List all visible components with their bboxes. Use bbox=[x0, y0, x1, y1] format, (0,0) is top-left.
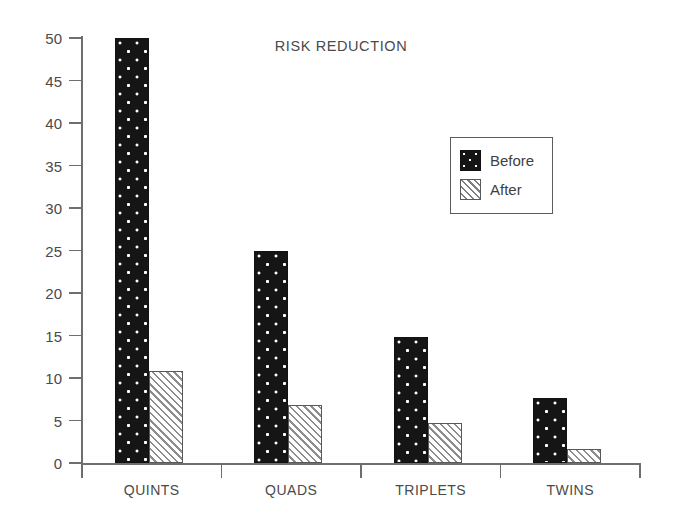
y-axis-tick-label: 25 bbox=[10, 242, 62, 259]
y-axis-tick-label: 35 bbox=[10, 157, 62, 174]
y-axis-tick bbox=[69, 122, 81, 123]
legend-item-after[interactable]: After bbox=[460, 175, 552, 204]
y-axis-tick-label: 5 bbox=[10, 412, 62, 429]
bar-quints-after[interactable] bbox=[149, 371, 183, 463]
x-axis-label-quads: QUADS bbox=[265, 482, 317, 498]
y-axis-tick bbox=[69, 207, 81, 208]
y-axis-tick bbox=[69, 292, 81, 293]
y-axis-tick bbox=[69, 462, 81, 463]
y-axis-tick-label: 30 bbox=[10, 200, 62, 217]
legend-label-after: After bbox=[490, 181, 522, 198]
chart-legend: Before After bbox=[450, 137, 553, 214]
bar-twins-after[interactable] bbox=[567, 449, 601, 463]
y-axis-tick-label: 50 bbox=[10, 30, 62, 47]
bar-twins-before[interactable] bbox=[533, 398, 567, 463]
legend-swatch-after-icon bbox=[460, 179, 481, 200]
chart-container: RISK REDUCTION 05101520253035404550 QUIN… bbox=[0, 0, 682, 517]
x-axis-label-triplets: TRIPLETS bbox=[395, 482, 466, 498]
bar-triplets-after[interactable] bbox=[428, 423, 462, 463]
y-axis-tick bbox=[69, 335, 81, 336]
x-axis-tick bbox=[221, 464, 222, 478]
y-axis-tick-label: 20 bbox=[10, 285, 62, 302]
y-axis-tick bbox=[69, 377, 81, 378]
y-axis-tick-label: 15 bbox=[10, 327, 62, 344]
bar-quads-before[interactable] bbox=[254, 251, 288, 464]
bar-quints-before[interactable] bbox=[115, 38, 149, 463]
legend-label-before: Before bbox=[490, 152, 534, 169]
y-axis-tick bbox=[69, 37, 81, 38]
x-axis-tick bbox=[81, 464, 82, 478]
x-axis-label-quints: QUINTS bbox=[124, 482, 180, 498]
x-axis-tick bbox=[360, 464, 361, 478]
bar-triplets-before[interactable] bbox=[394, 337, 428, 463]
y-axis-tick-label: 45 bbox=[10, 72, 62, 89]
legend-item-before[interactable]: Before bbox=[460, 146, 552, 175]
x-axis-tick bbox=[639, 464, 640, 478]
x-axis-label-twins: TWINS bbox=[546, 482, 594, 498]
y-axis-tick-label: 0 bbox=[10, 455, 62, 472]
y-axis-tick-label: 40 bbox=[10, 115, 62, 132]
y-axis-tick-label: 10 bbox=[10, 370, 62, 387]
y-axis-tick bbox=[69, 165, 81, 166]
legend-swatch-before-icon bbox=[460, 150, 481, 171]
y-axis-tick bbox=[69, 80, 81, 81]
plot-area bbox=[82, 38, 640, 463]
y-axis-tick bbox=[69, 250, 81, 251]
bar-quads-after[interactable] bbox=[288, 405, 322, 463]
y-axis-tick bbox=[69, 420, 81, 421]
x-axis-tick bbox=[500, 464, 501, 478]
